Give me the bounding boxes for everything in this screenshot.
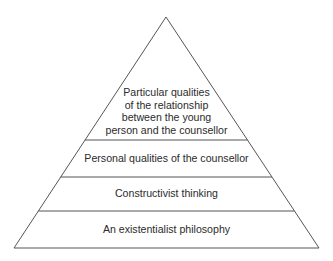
tier-top-line-2: of the relationship xyxy=(0,99,333,112)
tier-top-line-1: Particular qualities xyxy=(0,86,333,99)
tier-top-label: Particular qualities of the relationship… xyxy=(0,86,333,136)
tier-top-line-3: between the young xyxy=(0,111,333,124)
tier-second-label: Personal qualities of the counsellor xyxy=(0,152,333,165)
tier-base-line-1: An existentialist philosophy xyxy=(0,223,333,236)
tier-second-line-1: Personal qualities of the counsellor xyxy=(0,152,333,165)
tier-base-label: An existentialist philosophy xyxy=(0,223,333,236)
tier-third-label: Constructivist thinking xyxy=(0,187,333,200)
tier-third-line-1: Constructivist thinking xyxy=(0,187,333,200)
tier-top-line-4: person and the counsellor xyxy=(0,124,333,137)
pyramid-diagram: Particular qualities of the relationship… xyxy=(0,0,333,261)
